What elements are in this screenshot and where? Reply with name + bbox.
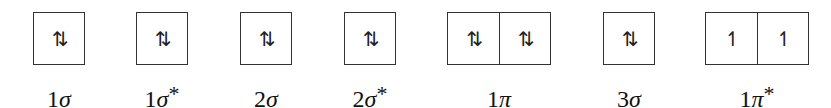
label-number: 2 xyxy=(353,86,365,108)
label-symbol: σ xyxy=(365,86,377,108)
paired-electrons-icon: ⇅ xyxy=(622,29,636,49)
orbital-label: 1π xyxy=(447,80,551,108)
orbital-label: 3σ xyxy=(603,80,655,108)
label-antibonding-star: * xyxy=(168,81,179,106)
orbital-boxes: ↿ ↿ xyxy=(705,12,809,65)
orbital-boxes: ⇅ xyxy=(33,12,85,65)
label-number: 1 xyxy=(47,86,59,108)
orbital-label: 2σ* xyxy=(344,80,396,108)
orbital-boxes: ⇅ xyxy=(240,12,292,65)
label-symbol: π xyxy=(499,86,511,108)
orbital-1pi-star: ↿ ↿ 1π* xyxy=(705,12,809,65)
label-antibonding-star: * xyxy=(764,81,775,106)
orbital-boxes: ⇅ xyxy=(136,12,188,65)
label-number: 1 xyxy=(487,86,499,108)
paired-electrons-icon: ⇅ xyxy=(467,29,481,49)
orbital-label: 1σ* xyxy=(136,80,188,108)
orbital-box: ⇅ xyxy=(34,13,84,64)
single-electron-up-icon: ↿ xyxy=(776,29,790,49)
orbital-2sigma-star: ⇅ 2σ* xyxy=(344,12,396,65)
label-symbol: σ xyxy=(157,86,169,108)
orbital-3sigma: ⇅ 3σ xyxy=(603,12,655,65)
orbital-2sigma: ⇅ 2σ xyxy=(240,12,292,65)
orbital-box: ↿ xyxy=(706,13,757,64)
orbital-label: 2σ xyxy=(240,80,292,108)
orbital-boxes: ⇅ ⇅ xyxy=(447,12,551,65)
paired-electrons-icon: ⇅ xyxy=(363,29,377,49)
paired-electrons-icon: ⇅ xyxy=(259,29,273,49)
paired-electrons-icon: ⇅ xyxy=(52,29,66,49)
orbital-boxes: ⇅ xyxy=(344,12,396,65)
label-number: 2 xyxy=(254,86,266,108)
orbital-box: ⇅ xyxy=(345,13,395,64)
label-symbol: π xyxy=(751,86,763,108)
single-electron-up-icon: ↿ xyxy=(725,29,739,49)
orbital-box: ⇅ xyxy=(604,13,654,64)
orbital-box: ⇅ xyxy=(499,13,550,64)
orbital-label: 1σ xyxy=(33,80,85,108)
label-symbol: σ xyxy=(59,86,71,108)
label-number: 3 xyxy=(617,86,629,108)
orbital-1pi: ⇅ ⇅ 1π xyxy=(447,12,551,65)
orbital-label: 1π* xyxy=(705,80,809,108)
orbital-boxes: ⇅ xyxy=(603,12,655,65)
label-antibonding-star: * xyxy=(376,81,387,106)
orbital-box: ⇅ xyxy=(137,13,187,64)
orbital-1sigma-star: ⇅ 1σ* xyxy=(136,12,188,65)
orbital-box: ⇅ xyxy=(448,13,499,64)
label-symbol: σ xyxy=(266,86,278,108)
paired-electrons-icon: ⇅ xyxy=(155,29,169,49)
label-symbol: σ xyxy=(629,86,641,108)
orbital-box: ↿ xyxy=(757,13,808,64)
orbital-box: ⇅ xyxy=(241,13,291,64)
paired-electrons-icon: ⇅ xyxy=(518,29,532,49)
label-number: 1 xyxy=(145,86,157,108)
label-number: 1 xyxy=(739,86,751,108)
orbital-1sigma: ⇅ 1σ xyxy=(33,12,85,65)
